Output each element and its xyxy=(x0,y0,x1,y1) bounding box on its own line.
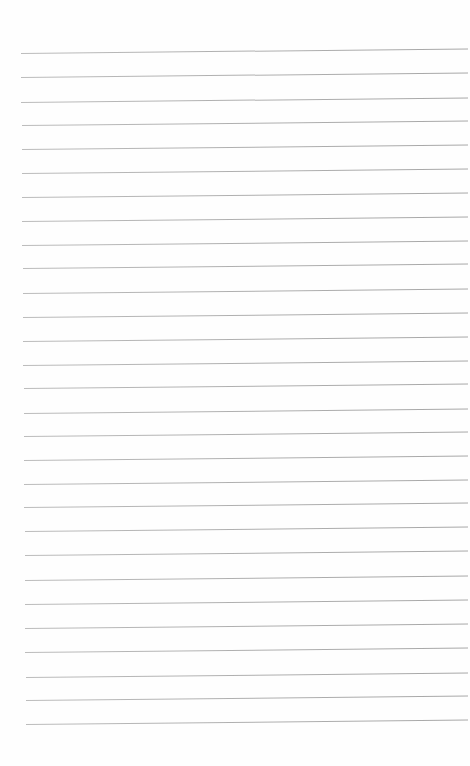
ruled-line xyxy=(24,432,468,437)
ruled-line xyxy=(24,480,468,485)
ruled-line xyxy=(24,456,468,461)
ruled-line xyxy=(22,216,468,222)
ruled-line xyxy=(25,527,468,532)
ruled-line xyxy=(23,288,468,294)
ruled-line xyxy=(26,673,468,678)
ruled-line xyxy=(25,648,468,653)
ruled-line xyxy=(22,144,468,150)
ruled-line xyxy=(24,503,468,508)
ruled-line xyxy=(21,72,468,78)
ruled-line xyxy=(24,409,468,414)
ruled-line xyxy=(23,312,468,318)
ruled-line xyxy=(23,360,468,366)
ruled-line xyxy=(22,120,468,126)
lined-paper-page xyxy=(0,0,470,766)
ruled-line xyxy=(25,624,468,629)
ruled-line xyxy=(22,192,468,198)
ruled-line xyxy=(21,48,468,54)
ruled-line xyxy=(26,720,468,725)
ruled-line xyxy=(24,384,468,389)
ruled-line xyxy=(25,600,468,605)
ruled-line xyxy=(22,168,468,174)
ruled-line xyxy=(26,696,468,701)
ruled-line xyxy=(21,97,468,103)
ruled-line xyxy=(23,263,468,269)
ruled-line xyxy=(25,551,468,556)
ruled-line xyxy=(22,240,468,246)
ruled-line xyxy=(23,336,468,342)
ruled-line xyxy=(25,576,468,581)
